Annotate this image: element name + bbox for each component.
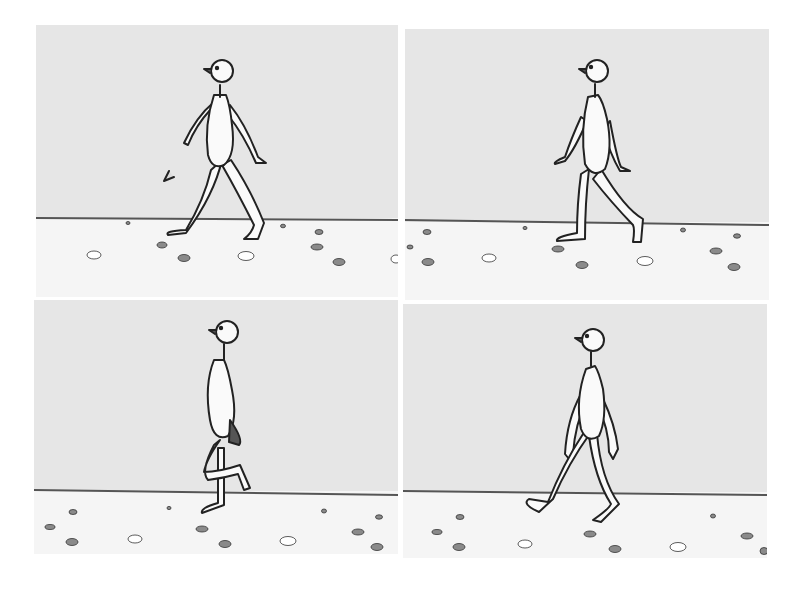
panel-2 [405, 29, 769, 300]
panel-4-illustration [403, 304, 767, 558]
panel-1 [36, 25, 398, 297]
panel-1-illustration [36, 25, 398, 297]
panel-3-illustration [34, 300, 398, 554]
panel-2-illustration [405, 29, 769, 300]
panel-3 [34, 300, 398, 554]
panel-4 [403, 304, 767, 558]
